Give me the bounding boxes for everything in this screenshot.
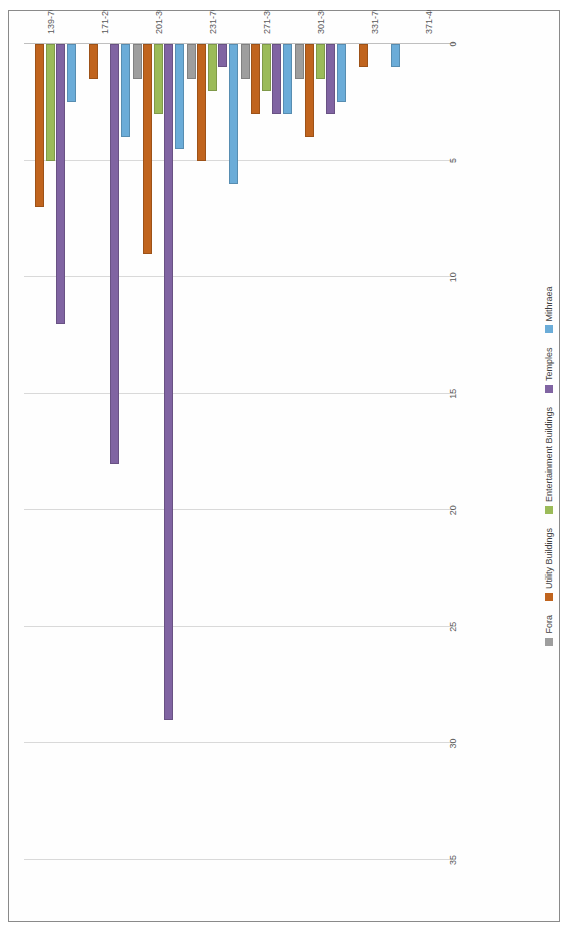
- gridline-35: [24, 859, 456, 860]
- chart-legend: ForaUtility BuildingsEntertainment Build…: [544, 10, 554, 922]
- bar-utility-buildings-139-70: [35, 44, 44, 207]
- tick-label-30: 30: [448, 738, 458, 748]
- bar-mithraea-301-30: [337, 44, 346, 102]
- legend-item-temples[interactable]: Temples: [544, 347, 554, 393]
- bar-fora-301-30: [295, 44, 304, 79]
- bar-mithraea-231-70: [229, 44, 238, 184]
- bar-entertainment-buildings-201-30: [154, 44, 163, 114]
- gridline-25: [24, 626, 456, 627]
- gridline-10: [24, 276, 456, 277]
- category-label-371-400: 371-400: [424, 10, 434, 34]
- legend-swatch-icon: [545, 325, 553, 333]
- bar-temples-231-70: [218, 44, 227, 67]
- legend-label: Fora: [544, 615, 554, 634]
- bar-mithraea-171-200: [121, 44, 130, 137]
- legend-swatch-icon: [545, 506, 553, 514]
- legend-item-entertainment-buildings[interactable]: Entertainment Buildings: [544, 407, 554, 514]
- bar-fora-201-30: [133, 44, 142, 79]
- bar-utility-buildings-331-70: [359, 44, 368, 67]
- bar-utility-buildings-201-30: [143, 44, 152, 254]
- bar-entertainment-buildings-139-70: [46, 44, 55, 161]
- category-label-139-70: 139-70: [46, 10, 56, 34]
- category-label-171-200: 171-200: [100, 10, 110, 34]
- bar-temples-271-300: [272, 44, 281, 114]
- legend-label: Entertainment Buildings: [544, 407, 554, 502]
- plot-area: 139-70171-200201-30231-70271-300301-3033…: [24, 44, 456, 860]
- gridline-20: [24, 509, 456, 510]
- bar-utility-buildings-301-30: [305, 44, 314, 137]
- legend-label: Mithraea: [544, 286, 554, 321]
- bar-entertainment-buildings-271-300: [262, 44, 271, 91]
- bar-utility-buildings-171-200: [89, 44, 98, 79]
- legend-swatch-icon: [545, 593, 553, 601]
- tick-label-20: 20: [448, 505, 458, 515]
- rotated-chart-wrapper: 139-70171-200201-30231-70271-300301-3033…: [8, 10, 560, 922]
- screenshot-page: 139-70171-200201-30231-70271-300301-3033…: [0, 0, 576, 934]
- tick-label-35: 35: [448, 855, 458, 865]
- category-label-331-70: 331-70: [370, 10, 380, 34]
- bar-utility-buildings-271-300: [251, 44, 260, 114]
- category-label-301-30: 301-30: [316, 10, 326, 34]
- legend-item-utility-buildings[interactable]: Utility Buildings: [544, 528, 554, 601]
- tick-label-10: 10: [448, 272, 458, 282]
- category-label-201-30: 201-30: [154, 10, 164, 34]
- tick-label-5: 5: [448, 158, 458, 163]
- category-label-271-300: 271-300: [262, 10, 272, 34]
- bar-mithraea-271-300: [283, 44, 292, 114]
- bar-utility-buildings-231-70: [197, 44, 206, 161]
- bar-mithraea-139-70: [67, 44, 76, 102]
- bar-temples-301-30: [326, 44, 335, 114]
- gridline-30: [24, 742, 456, 743]
- bar-temples-139-70: [56, 44, 65, 324]
- bar-chart: 139-70171-200201-30231-70271-300301-3033…: [8, 10, 560, 922]
- legend-label: Utility Buildings: [544, 528, 554, 589]
- tick-label-25: 25: [448, 622, 458, 632]
- legend-label: Temples: [544, 347, 554, 381]
- category-label-231-70: 231-70: [208, 10, 218, 34]
- bar-entertainment-buildings-301-30: [316, 44, 325, 79]
- bar-fora-231-70: [187, 44, 196, 79]
- bar-mithraea-201-30: [175, 44, 184, 149]
- gridline-15: [24, 393, 456, 394]
- legend-swatch-icon: [545, 385, 553, 393]
- bar-fora-271-300: [241, 44, 250, 79]
- legend-swatch-icon: [545, 638, 553, 646]
- bar-temples-171-200: [110, 44, 119, 464]
- legend-item-fora[interactable]: Fora: [544, 615, 554, 646]
- bar-entertainment-buildings-231-70: [208, 44, 217, 91]
- bar-temples-201-30: [164, 44, 173, 720]
- tick-label-15: 15: [448, 389, 458, 399]
- legend-item-mithraea[interactable]: Mithraea: [544, 286, 554, 333]
- bar-mithraea-331-70: [391, 44, 400, 67]
- tick-label-0: 0: [448, 41, 458, 46]
- gridline-5: [24, 160, 456, 161]
